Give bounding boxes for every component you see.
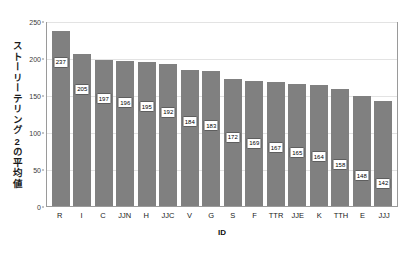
bar-slot: 195	[136, 23, 158, 206]
bar-value-label: 148	[354, 170, 369, 181]
bar-slot: 158	[330, 23, 352, 206]
bar-slot: 142	[373, 23, 395, 206]
bar-value-label: 197	[96, 93, 111, 104]
bar-value-label: 195	[139, 101, 154, 112]
bar[interactable]: 192	[159, 64, 177, 206]
bar-slot: 164	[308, 23, 330, 206]
bar-value-label: 142	[376, 178, 391, 189]
bar-slot: 172	[222, 23, 244, 206]
bar[interactable]: 164	[310, 85, 328, 206]
bar[interactable]: 148	[353, 96, 371, 206]
bar[interactable]: 167	[267, 82, 285, 206]
bar[interactable]: 165	[288, 84, 306, 206]
bar-slot: 184	[179, 23, 201, 206]
bar[interactable]: 183	[202, 71, 220, 206]
bar[interactable]: 195	[138, 62, 156, 206]
bar-slot: 205	[72, 23, 94, 206]
bar-slot: 169	[244, 23, 266, 206]
y-axis-ticks: 050100150200250	[22, 0, 44, 257]
x-axis-tick-label: JJE	[287, 207, 309, 221]
bar-value-label: 165	[290, 147, 305, 158]
plot-area: 2372051971961951921841831721691671651641…	[46, 22, 398, 207]
bar[interactable]: 196	[116, 61, 134, 206]
bar-value-label: 196	[118, 97, 133, 108]
x-axis-tick-label: G	[200, 207, 222, 221]
bar-slot: 167	[265, 23, 287, 206]
bar[interactable]: 205	[73, 54, 91, 206]
bar[interactable]: 158	[331, 89, 349, 206]
y-axis-tick-mark	[42, 96, 45, 97]
y-axis-tick-mark	[42, 22, 45, 23]
y-axis-tick-mark	[42, 59, 45, 60]
bar[interactable]: 142	[374, 101, 392, 206]
bar-slot: 197	[93, 23, 115, 206]
x-axis-tick-label: JJC	[157, 207, 179, 221]
bar-value-label: 167	[268, 142, 283, 153]
y-axis-title-text: ストーリーテリング2の平均値	[12, 41, 22, 189]
x-axis-tick-label: TTH	[330, 207, 352, 221]
bar[interactable]: 172	[224, 79, 242, 206]
bar-slot: 196	[115, 23, 137, 206]
x-axis-tick-label: K	[309, 207, 331, 221]
x-axis-title: ID	[46, 228, 398, 237]
bar-value-label: 172	[225, 132, 240, 143]
x-axis-ticks: RICJJNHJJCVGSFTTRJJEKTTHEJJJ	[46, 207, 398, 221]
bar[interactable]: 197	[95, 60, 113, 206]
y-axis-tick-mark	[42, 170, 45, 171]
bar-slot: 148	[351, 23, 373, 206]
bar-slot: 237	[50, 23, 72, 206]
bar-value-label: 192	[161, 107, 176, 118]
bar[interactable]: 169	[245, 81, 263, 206]
x-axis-tick-label: V	[179, 207, 201, 221]
bar-value-label: 169	[247, 138, 262, 149]
y-axis-tick-mark	[42, 207, 45, 208]
bar[interactable]: 184	[181, 70, 199, 206]
x-axis-tick-label: C	[92, 207, 114, 221]
bar-chart: ストーリーテリング2の平均値 050100150200250 237205197…	[0, 0, 411, 257]
y-axis-tick-mark	[42, 133, 45, 134]
bar[interactable]: 237	[52, 31, 70, 206]
bar-slot: 192	[158, 23, 180, 206]
x-axis-tick-label: S	[222, 207, 244, 221]
bar-value-label: 158	[333, 159, 348, 170]
bar-value-label: 205	[75, 84, 90, 95]
bar-slot: 165	[287, 23, 309, 206]
bar-value-label: 164	[311, 151, 326, 162]
bar-value-label: 237	[53, 57, 68, 68]
x-axis-tick-label: I	[71, 207, 93, 221]
x-axis-tick-label: H	[136, 207, 158, 221]
x-axis-tick-label: F	[244, 207, 266, 221]
x-axis-tick-label: JJN	[114, 207, 136, 221]
x-axis-tick-label: TTR	[265, 207, 287, 221]
bar-value-label: 183	[204, 120, 219, 131]
bar-slot: 183	[201, 23, 223, 206]
x-axis-tick-label: R	[49, 207, 71, 221]
bar-value-label: 184	[182, 116, 197, 127]
x-axis-tick-label: E	[352, 207, 374, 221]
x-axis-tick-label: JJJ	[373, 207, 395, 221]
bar-series: 2372051971961951921841831721691671651641…	[47, 23, 397, 206]
